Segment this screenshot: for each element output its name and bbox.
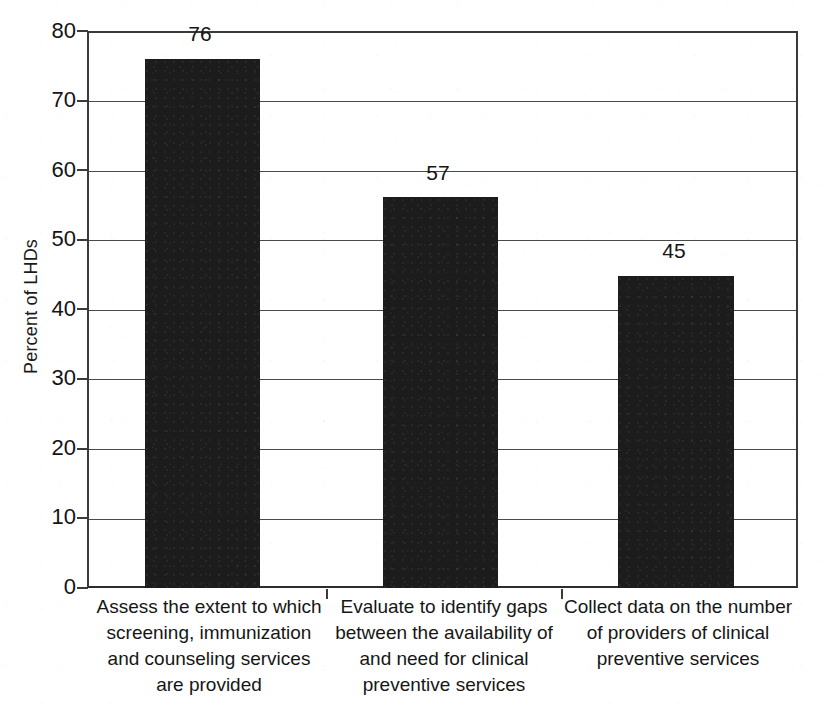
y-tick-label-60: 60 (16, 159, 76, 181)
category-label-line: between the availability of (319, 620, 569, 646)
category-label-collect-data: Collect data on the number of providers … (553, 594, 803, 672)
category-label-line: are provided (84, 672, 334, 698)
category-label-line: and need for clinical (319, 646, 569, 672)
category-label-assess-extent: Assess the extent to which screening, im… (84, 594, 334, 698)
bar-value-label-1: 76 (140, 23, 260, 44)
bar-chart: Percent of LHDs 80 70 60 50 40 30 20 10 … (0, 0, 826, 715)
y-tick-label-40: 40 (16, 298, 76, 320)
bar-value-label-2: 57 (378, 162, 498, 183)
y-tick-label-0: 0 (16, 576, 76, 598)
category-label-line: of providers of clinical (553, 620, 803, 646)
y-tick-label-80: 80 (16, 20, 76, 42)
plot-area (87, 31, 798, 588)
category-label-line: Assess the extent to which (84, 594, 334, 620)
category-label-line: preventive services (319, 672, 569, 698)
category-label-line: preventive services (553, 646, 803, 672)
category-label-line: and counseling services (84, 646, 334, 672)
bar-collect-data (618, 276, 734, 588)
y-tick-label-70: 70 (16, 89, 76, 111)
category-label-line: Collect data on the number (553, 594, 803, 620)
bar-value-label-3: 45 (614, 240, 734, 261)
y-tick-label-30: 30 (16, 367, 76, 389)
category-label-line: screening, immunization (84, 620, 334, 646)
category-label-line: Evaluate to identify gaps (319, 594, 569, 620)
bar-assess-extent (145, 59, 260, 588)
y-tick-label-20: 20 (16, 437, 76, 459)
category-label-evaluate-gaps: Evaluate to identify gaps between the av… (319, 594, 569, 698)
y-tick-label-10: 10 (16, 506, 76, 528)
bar-evaluate-gaps (383, 197, 498, 588)
y-tick-label-50: 50 (16, 228, 76, 250)
